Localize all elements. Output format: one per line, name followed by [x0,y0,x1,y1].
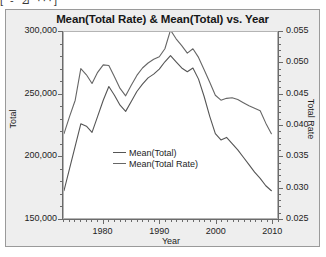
y-axis-left-minor-tick [60,56,63,57]
y-axis-right-minor-tick [278,169,281,170]
series-line-1 [64,56,271,191]
y-axis-right-tick-label: 0.055 [286,25,309,35]
x-axis-minor-tick [233,219,234,222]
x-axis-minor-tick [86,219,87,222]
x-axis-minor-tick [142,219,143,222]
y-axis-right-minor-tick [278,37,281,38]
x-axis-minor-tick [221,219,222,222]
x-axis-minor-tick [131,219,132,222]
y-axis-right-minor-tick [278,50,281,51]
legend-label: Mean(Total Rate) [129,159,198,169]
y-axis-left-minor-tick [60,69,63,70]
series-line-2 [64,32,271,134]
y-axis-right-minor-tick [278,44,281,45]
y-axis-right-minor-tick [278,175,281,176]
y-axis-right-minor-tick [278,87,281,88]
x-axis-minor-tick [69,219,70,222]
y-axis-left-minor-tick [60,81,63,82]
y-axis-right-minor-tick [278,56,281,57]
x-axis-minor-tick [74,219,75,222]
x-axis-minor-tick [255,219,256,222]
x-axis-tick [216,219,217,224]
x-axis-minor-tick [171,219,172,222]
legend-item: Mean(Total Rate) [113,158,198,169]
y-axis-right-tick-label: 0.030 [286,182,309,192]
x-axis-minor-tick [261,219,262,222]
x-axis-minor-tick [97,219,98,222]
y-axis-left-minor-tick [60,181,63,182]
y-axis-right-minor-tick [278,163,281,164]
x-axis-minor-tick [193,219,194,222]
y-axis-left-minor-tick [60,169,63,170]
y-axis-right-tick-label: 0.035 [286,150,309,160]
y-axis-left-minor-tick [60,144,63,145]
x-axis-minor-tick [154,219,155,222]
y-axis-right-minor-tick [278,75,281,76]
y-axis-right-title: Total Rate [306,96,316,142]
x-axis-minor-tick [250,219,251,222]
y-axis-left-minor-tick [60,44,63,45]
x-axis-minor-tick [210,219,211,222]
x-axis-minor-tick [165,219,166,222]
x-axis-title: Year [63,236,279,246]
x-axis-minor-tick [114,219,115,222]
y-axis-left-tick [58,94,63,95]
y-axis-left-tick-label: 300,000 [11,25,57,35]
y-axis-right-tick-label: 0.025 [286,213,309,223]
x-axis-minor-tick [199,219,200,222]
y-axis-right-tick-label: 0.050 [286,56,309,66]
x-axis-tick-label: 2000 [196,226,236,236]
y-axis-right-tick [278,156,283,157]
y-axis-right-tick [278,31,283,32]
x-axis-minor-tick [148,219,149,222]
x-axis-minor-tick [267,219,268,222]
x-axis-minor-tick [137,219,138,222]
y-axis-right-minor-tick [278,200,281,201]
x-axis-minor-tick [176,219,177,222]
y-axis-right-minor-tick [278,194,281,195]
y-axis-right-minor-tick [278,181,281,182]
plot-svg [64,32,277,218]
x-axis-minor-tick [187,219,188,222]
x-axis-minor-tick [182,219,183,222]
x-axis-tick-label: 1990 [139,226,179,236]
y-axis-right-minor-tick [278,100,281,101]
y-axis-right-minor-tick [278,150,281,151]
x-axis-tick [159,219,160,224]
y-axis-right-minor-tick [278,138,281,139]
x-axis-minor-tick [278,219,279,222]
chart-legend: Mean(Total) Mean(Total Rate) [113,147,198,169]
legend-label: Mean(Total) [129,148,177,158]
y-axis-left-minor-tick [60,119,63,120]
y-axis-left-tick [58,156,63,157]
x-axis-tick [272,219,273,224]
y-axis-right-minor-tick [278,81,281,82]
y-axis-right-minor-tick [278,69,281,70]
legend-line-icon [113,163,126,164]
chart-frame: Mean(Total Rate) & Mean(Total) vs. Year … [5,9,320,247]
x-axis-tick-label: 2010 [252,226,292,236]
y-axis-left-minor-tick [60,194,63,195]
y-axis-right-minor-tick [278,144,281,145]
chart-title: Mean(Total Rate) & Mean(Total) vs. Year [6,13,319,25]
x-axis-minor-tick [80,219,81,222]
host-ui-fragment-text: [ - ⊿ ···] [0,0,59,7]
y-axis-right-minor-tick [278,106,281,107]
y-axis-left-tick [58,31,63,32]
y-axis-left-tick-label: 150,000 [11,213,57,223]
y-axis-left-minor-tick [60,131,63,132]
y-axis-left-minor-tick [60,106,63,107]
x-axis-minor-tick [227,219,228,222]
x-axis-minor-tick [108,219,109,222]
x-axis-tick-label: 1980 [83,226,123,236]
x-axis-minor-tick [120,219,121,222]
y-axis-left-minor-tick [60,206,63,207]
x-axis-minor-tick [238,219,239,222]
y-axis-right-minor-tick [278,206,281,207]
y-axis-right-minor-tick [278,131,281,132]
host-ui-fragment-strip: [ - ⊿ ···] [0,0,326,8]
y-axis-right-tick [278,125,283,126]
y-axis-right-minor-tick [278,213,281,214]
y-axis-right-minor-tick [278,119,281,120]
y-axis-right-minor-tick [278,112,281,113]
